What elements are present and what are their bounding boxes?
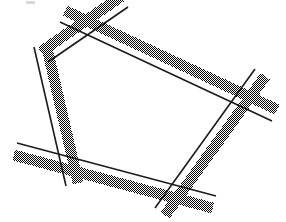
line-drawing-canvas xyxy=(0,0,286,222)
figure-root xyxy=(0,0,286,222)
corner-speck xyxy=(26,1,35,4)
